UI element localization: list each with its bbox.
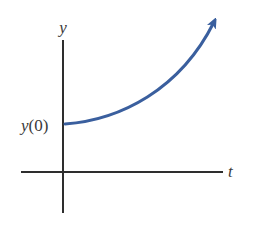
y-intercept-label: y(0) bbox=[19, 116, 48, 135]
t-axis-label: t bbox=[228, 162, 234, 181]
y-intercept-label-arg: (0) bbox=[29, 116, 49, 135]
growth-curve bbox=[65, 22, 214, 124]
y-intercept-label-var: y bbox=[19, 116, 29, 135]
y-axis-label: y bbox=[57, 18, 67, 37]
growth-diagram: y t y(0) bbox=[0, 0, 255, 225]
